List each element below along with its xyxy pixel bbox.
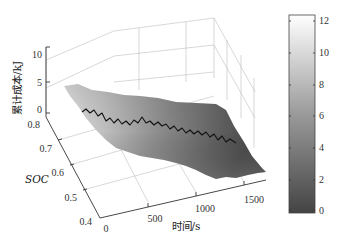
surface-chart: 10 5 0 0.8 0.7 0.6 0.5 0.4 0 500 1000 15… bbox=[0, 0, 341, 242]
colorbar bbox=[289, 15, 315, 213]
z-tick: 5 bbox=[37, 77, 42, 88]
colorbar-tick: 10 bbox=[319, 47, 329, 58]
y-tick: 0.6 bbox=[52, 167, 65, 178]
x-tick: 1000 bbox=[195, 203, 215, 214]
colorbar-tick: 8 bbox=[319, 79, 324, 90]
cost-surface bbox=[64, 84, 266, 179]
x-axis-label: 时间/s bbox=[172, 220, 201, 232]
y-tick: 0.5 bbox=[65, 192, 78, 203]
y-axis-label: SOC bbox=[25, 173, 49, 185]
colorbar-tick: 0 bbox=[319, 205, 324, 216]
z-axis-label: 累计成本/kJ bbox=[11, 61, 23, 115]
colorbar-tick: 6 bbox=[319, 110, 324, 121]
z-tick: 0 bbox=[37, 104, 42, 115]
x-tick: 500 bbox=[148, 213, 163, 224]
colorbar-tick: 12 bbox=[319, 15, 329, 26]
colorbar-tick: 2 bbox=[319, 174, 324, 185]
z-tick: 10 bbox=[32, 49, 42, 60]
colorbar-tick: 4 bbox=[319, 142, 324, 153]
y-tick: 0.7 bbox=[40, 143, 53, 154]
y-tick: 0.4 bbox=[80, 216, 93, 227]
y-tick: 0.8 bbox=[28, 119, 41, 130]
x-tick: 0 bbox=[104, 223, 109, 234]
x-tick: 1500 bbox=[244, 194, 264, 205]
